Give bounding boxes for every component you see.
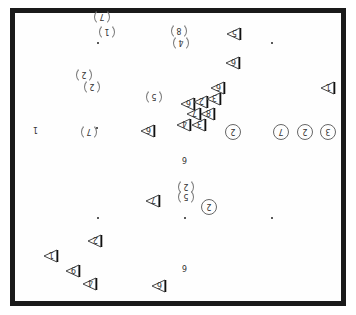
circle-stone-mark: 7 <box>94 9 110 25</box>
board-diagram <box>10 8 346 306</box>
star-point <box>271 42 273 44</box>
triangle-mark-label: 7 <box>192 108 197 117</box>
triangle-stone-mark: 3 <box>191 117 207 131</box>
star-point <box>97 217 99 219</box>
triangle-stone-mark: 4 <box>176 117 192 131</box>
circle-stone-mark: 2 <box>297 124 313 140</box>
plain-label: 1 <box>33 125 38 134</box>
star-point <box>271 217 273 219</box>
triangle-mark-label: 7 <box>151 195 156 204</box>
triangle-mark-label: 3 <box>212 93 217 102</box>
triangle-mark-label: 1 <box>326 82 331 91</box>
triangle-stone-mark: 6 <box>225 55 241 69</box>
triangle-stone-mark: 1 <box>320 80 336 94</box>
plain-label: 6 <box>182 155 187 164</box>
triangle-mark-label: 2 <box>93 235 98 244</box>
circle-stone-mark: 7 <box>81 124 97 140</box>
triangle-mark-label: 6 <box>157 280 162 289</box>
triangle-stone-mark: 3 <box>206 91 222 105</box>
plain-label: 6 <box>182 263 187 272</box>
triangle-stone-mark: 6 <box>140 123 156 137</box>
circle-stone-mark: 2 <box>84 79 100 95</box>
circle-stone-mark: 1 <box>99 24 115 40</box>
triangle-mark-label: 5 <box>232 28 237 37</box>
circle-stone-mark: 5 <box>178 189 194 205</box>
triangle-stone-mark: 6 <box>151 278 167 292</box>
triangle-stone-mark: 9 <box>65 263 81 277</box>
triangle-mark-label: 4 <box>88 278 93 287</box>
triangle-stone-mark: 5 <box>226 26 242 40</box>
triangle-mark-label: 9 <box>71 265 76 274</box>
triangle-stone-mark: 2 <box>87 233 103 247</box>
triangle-stone-mark: 1 <box>43 248 59 262</box>
circle-stone-mark: 2 <box>201 199 217 215</box>
triangle-mark-label: 3 <box>197 119 202 128</box>
triangle-mark-label: 8 <box>206 108 211 117</box>
triangle-mark-label: 1 <box>49 250 54 259</box>
circle-stone-mark: 3 <box>320 124 336 140</box>
triangle-mark-label: 2 <box>199 96 204 105</box>
triangle-mark-label: 6 <box>216 82 221 91</box>
triangle-stone-mark: 4 <box>82 276 98 290</box>
triangle-stone-mark: 7 <box>145 193 161 207</box>
triangle-mark-label: 6 <box>146 125 151 134</box>
circle-stone-mark: 4 <box>173 35 189 51</box>
triangle-mark-label: 6 <box>231 57 236 66</box>
star-point <box>97 42 99 44</box>
circle-stone-mark: 7 <box>273 124 289 140</box>
circle-stone-mark: 2 <box>225 124 241 140</box>
circle-stone-mark: 5 <box>146 89 162 105</box>
star-point <box>184 217 186 219</box>
triangle-mark-label: 4 <box>182 119 187 128</box>
